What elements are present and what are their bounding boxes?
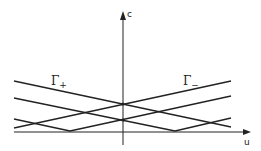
diagram-canvas: c u Γ+ Γ− [0,0,261,151]
gamma-minus-sub: − [191,80,199,90]
intersection-point-upper [122,103,125,106]
gamma-minus-label: Γ− [183,74,199,90]
gamma-plus-label: Γ+ [51,74,67,90]
intersection-point-lower [122,119,125,122]
descending-line-3 [14,119,70,131]
c-axis-arrow-icon [120,11,126,20]
u-axis-arrow-icon [243,129,251,135]
u-axis-label: u [244,137,250,147]
gamma-plus-main: Γ [51,74,59,88]
gamma-plus-sub: + [59,80,67,90]
ascending-line-3 [175,118,231,131]
c-axis-label: c [127,9,132,19]
gamma-minus-main: Γ [183,74,191,88]
